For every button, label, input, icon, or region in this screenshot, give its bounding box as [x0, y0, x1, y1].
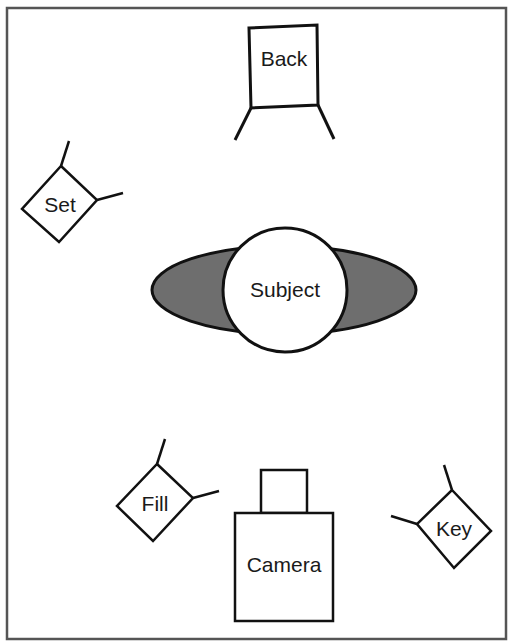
back-label: Back [261, 47, 308, 70]
lighting-diagram: Back Set Subject Fill Camera Key [0, 0, 508, 642]
key-light: Key [391, 465, 491, 568]
fill-light: Fill [117, 439, 219, 541]
key-label: Key [436, 517, 473, 540]
camera: Camera [235, 470, 333, 621]
set-light: Set [22, 141, 123, 242]
camera-lens [261, 470, 307, 513]
subject: Subject [152, 228, 416, 352]
fill-label: Fill [142, 492, 169, 515]
back-light: Back [235, 25, 334, 140]
subject-label: Subject [250, 278, 320, 301]
set-label: Set [44, 193, 76, 216]
camera-label: Camera [247, 553, 322, 576]
